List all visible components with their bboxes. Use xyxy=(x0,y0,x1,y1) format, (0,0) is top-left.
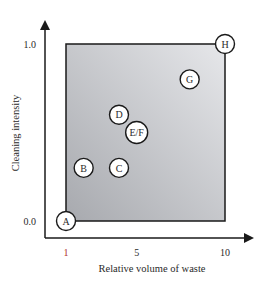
x-tick-label: 1 xyxy=(64,247,69,258)
data-point-label: C xyxy=(116,163,123,174)
data-point-label: D xyxy=(115,109,122,120)
y-tick-label: 0.0 xyxy=(24,216,37,227)
data-point: H xyxy=(216,35,235,54)
y-axis-arrow-icon xyxy=(40,20,50,30)
data-point: E/F xyxy=(126,122,148,144)
y-axis-label: Cleaning intensity xyxy=(10,94,21,171)
data-point: B xyxy=(74,158,93,177)
chart: 1510 0.01.0 Relative volume of waste Cle… xyxy=(0,0,266,284)
data-point-label: G xyxy=(186,74,193,85)
x-tick-label: 10 xyxy=(220,247,230,258)
data-point-label: H xyxy=(221,39,228,50)
data-point: A xyxy=(57,212,76,231)
x-tick-label: 5 xyxy=(134,247,139,258)
y-tick-label: 1.0 xyxy=(24,39,37,50)
data-point-label: E/F xyxy=(129,127,144,138)
data-point-label: A xyxy=(62,216,70,227)
x-tick-labels: 1510 xyxy=(64,247,231,258)
x-axis-label: Relative volume of waste xyxy=(98,263,205,274)
x-axis-arrow-icon xyxy=(244,233,254,243)
data-point: G xyxy=(180,70,199,89)
data-point-label: B xyxy=(80,163,87,174)
data-point: D xyxy=(110,105,129,124)
data-point: C xyxy=(110,158,129,177)
y-tick-labels: 0.01.0 xyxy=(24,39,37,227)
